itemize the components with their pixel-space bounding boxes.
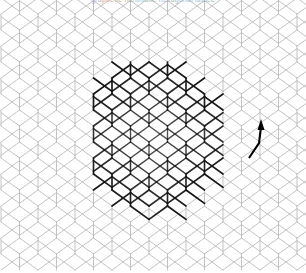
figure-root: graphene nanoflake hexagonal lattice [0,0,306,273]
hexagonal-lattice-figure [0,0,306,273]
